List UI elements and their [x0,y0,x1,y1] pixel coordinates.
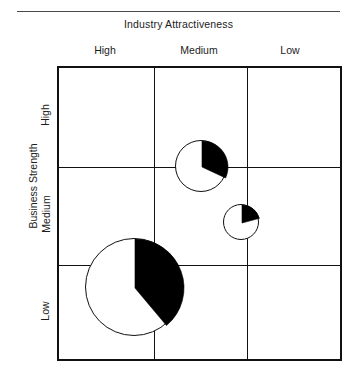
market-bubble [223,204,259,240]
row-label-high: High [39,84,51,146]
column-label-medium: Medium [168,44,230,56]
market-share-wedge [135,239,184,326]
column-label-low: Low [268,44,312,56]
header-divider-rule [17,11,340,12]
row-label-medium: Medium [40,176,52,252]
market-share-wedge [242,205,259,223]
market-bubble [85,238,183,336]
figure-canvas: Industry Attractiveness High Medium Low … [0,0,364,378]
chart-title: Industry Attractiveness [0,18,364,30]
market-share-wedge [202,141,228,178]
market-bubble [175,140,227,192]
row-label-low: Low [39,282,51,340]
y-axis-title: Business Strength [27,106,39,266]
column-label-high: High [82,44,128,56]
